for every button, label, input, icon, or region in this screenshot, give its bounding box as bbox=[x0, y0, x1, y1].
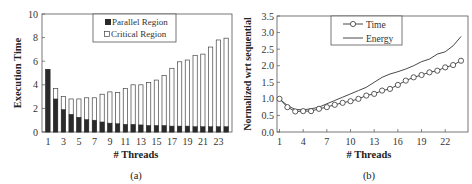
x-tick-label: 7 bbox=[92, 136, 97, 147]
y-tick-label: 2 bbox=[33, 103, 38, 114]
time-marker bbox=[451, 62, 456, 67]
bar-parallel-region bbox=[170, 126, 174, 132]
x-tick-label: 10 bbox=[346, 136, 356, 147]
bar-critical-region bbox=[193, 55, 197, 132]
legend-marker-time bbox=[350, 21, 355, 26]
time-marker bbox=[340, 100, 345, 105]
legend-swatch-critical bbox=[105, 32, 110, 37]
x-tick-label: 9 bbox=[107, 136, 112, 147]
bar-parallel-region bbox=[53, 99, 57, 132]
time-marker bbox=[277, 96, 282, 101]
bar-critical-region bbox=[170, 68, 174, 132]
x-tick-label: 5 bbox=[76, 136, 81, 147]
time-marker bbox=[395, 82, 400, 87]
y-tick-label: 2.5 bbox=[262, 44, 275, 55]
time-marker bbox=[316, 106, 321, 111]
y-tick-label: 0.5 bbox=[262, 110, 275, 121]
x-tick-label: 1 bbox=[277, 136, 282, 147]
x-tick-label: 22 bbox=[440, 136, 450, 147]
panel-label-b: (b) bbox=[363, 170, 376, 182]
bar-critical-region bbox=[154, 80, 158, 132]
time-marker bbox=[285, 105, 290, 110]
x-tick-label: 16 bbox=[393, 136, 403, 147]
y-axis-title: Normalized wrt sequential bbox=[242, 17, 253, 131]
bar-critical-region bbox=[146, 82, 150, 132]
y-tick-label: 3.5 bbox=[262, 11, 275, 22]
panel-label-a: (a) bbox=[130, 170, 142, 182]
x-tick-label: 13 bbox=[136, 136, 146, 147]
bar-critical-region bbox=[162, 75, 166, 132]
legend-label-energy: Energy bbox=[366, 34, 394, 44]
time-marker bbox=[435, 68, 440, 73]
time-marker bbox=[427, 70, 432, 75]
y-tick-label: 1.0 bbox=[262, 93, 275, 104]
time-marker bbox=[372, 91, 377, 96]
bar-parallel-region bbox=[69, 114, 73, 132]
bar-parallel-region bbox=[162, 126, 166, 132]
time-marker bbox=[458, 58, 463, 63]
time-marker bbox=[379, 88, 384, 93]
bar-parallel-region bbox=[115, 124, 119, 132]
x-tick-label: 23 bbox=[213, 136, 223, 147]
x-axis-title: # Threads bbox=[347, 149, 392, 160]
x-tick-label: 7 bbox=[324, 136, 329, 147]
chart-a-panel: 02468101357911131517192123Parallel Regio… bbox=[0, 0, 236, 184]
time-marker bbox=[403, 78, 408, 83]
legend-swatch-parallel bbox=[105, 19, 111, 25]
bar-parallel-region bbox=[224, 127, 228, 132]
x-tick-label: 11 bbox=[121, 136, 131, 147]
bar-critical-region bbox=[185, 60, 189, 132]
bar-parallel-region bbox=[154, 126, 158, 132]
time-marker bbox=[324, 105, 329, 110]
x-tick-label: 13 bbox=[369, 136, 379, 147]
chart-a: 02468101357911131517192123Parallel Regio… bbox=[0, 0, 236, 184]
time-marker bbox=[348, 99, 353, 104]
time-marker bbox=[419, 72, 424, 77]
bar-parallel-region bbox=[177, 126, 181, 132]
y-tick-label: 10 bbox=[28, 9, 38, 20]
y-tick-label: 4 bbox=[33, 79, 38, 90]
time-marker bbox=[364, 93, 369, 98]
bar-parallel-region bbox=[193, 127, 197, 132]
x-tick-label: 19 bbox=[417, 136, 427, 147]
bar-critical-region bbox=[208, 47, 212, 132]
x-tick-label: 19 bbox=[182, 136, 192, 147]
chart-b-panel: 0.00.51.01.52.02.53.03.51471013161922Tim… bbox=[236, 0, 472, 184]
y-tick-label: 0.0 bbox=[262, 127, 275, 138]
bar-parallel-region bbox=[131, 124, 135, 132]
bar-parallel-region bbox=[77, 117, 81, 132]
x-tick-label: 1 bbox=[45, 136, 50, 147]
bar-parallel-region bbox=[216, 127, 220, 132]
bar-parallel-region bbox=[46, 69, 50, 132]
energy-line bbox=[280, 37, 462, 110]
time-marker bbox=[387, 86, 392, 91]
time-marker bbox=[332, 102, 337, 107]
bar-parallel-region bbox=[123, 124, 127, 132]
y-tick-label: 1.5 bbox=[262, 77, 275, 88]
bar-parallel-region bbox=[84, 120, 88, 132]
legend-label-time: Time bbox=[366, 20, 386, 30]
time-marker bbox=[308, 109, 313, 114]
x-tick-label: 4 bbox=[301, 136, 306, 147]
y-tick-label: 2.0 bbox=[262, 60, 275, 71]
y-tick-label: 6 bbox=[33, 56, 38, 67]
x-tick-label: 21 bbox=[198, 136, 208, 147]
bar-parallel-region bbox=[108, 123, 112, 132]
x-tick-label: 15 bbox=[151, 136, 161, 147]
y-tick-label: 3.0 bbox=[262, 27, 275, 38]
bar-parallel-region bbox=[61, 110, 65, 132]
legend: TimeEnergy bbox=[331, 16, 402, 45]
time-marker bbox=[356, 96, 361, 101]
x-tick-label: 17 bbox=[167, 136, 177, 147]
bar-parallel-region bbox=[92, 120, 96, 132]
time-marker bbox=[411, 75, 416, 80]
bar-critical-region bbox=[201, 54, 205, 132]
bar-parallel-region bbox=[185, 126, 189, 132]
legend-label-critical: Critical Region bbox=[111, 29, 167, 39]
bar-parallel-region bbox=[100, 122, 104, 132]
time-line bbox=[280, 61, 462, 112]
legend: Parallel RegionCritical Region bbox=[93, 14, 176, 42]
y-tick-label: 0 bbox=[33, 127, 38, 138]
bar-parallel-region bbox=[146, 126, 150, 132]
bar-critical-region bbox=[177, 62, 181, 132]
